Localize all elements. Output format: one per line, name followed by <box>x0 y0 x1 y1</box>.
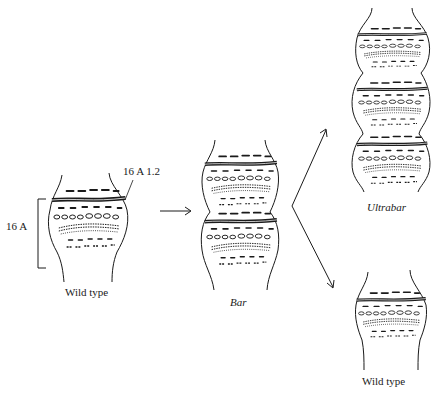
arrow-bar-to-wildtype <box>292 206 334 288</box>
bracket-label-16a: 16 A <box>6 220 27 232</box>
label-wild-type-right: Wild type <box>362 375 405 387</box>
wild-type-left-chromosome <box>48 173 127 282</box>
bar-chromosome <box>201 140 278 290</box>
diagram-canvas <box>0 0 438 396</box>
label-bar: Bar <box>230 296 247 308</box>
wild-type-right-chromosome <box>355 270 426 370</box>
16a-bracket <box>38 199 46 268</box>
label-wild-type-left: Wild type <box>65 286 108 298</box>
band-label-16a-1-2: 16 A 1.2 <box>123 165 160 177</box>
band-leader-line <box>125 180 133 200</box>
ultrabar-chromosome <box>352 8 430 192</box>
label-ultrabar: Ultrabar <box>367 201 406 213</box>
arrow-bar-to-ultrabar <box>292 129 327 206</box>
arrow-wildtype-to-bar <box>160 207 191 215</box>
